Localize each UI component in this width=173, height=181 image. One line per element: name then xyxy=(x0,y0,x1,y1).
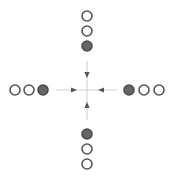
open-circle xyxy=(139,85,149,95)
open-circle xyxy=(154,85,164,95)
open-circle xyxy=(82,11,92,21)
filled-circle xyxy=(82,41,92,51)
arrow-down-icon xyxy=(84,72,89,78)
filled-circle xyxy=(38,85,48,95)
arrow-up-icon xyxy=(84,102,89,108)
diagram-canvas xyxy=(0,0,173,181)
open-circle xyxy=(24,85,34,95)
open-circle xyxy=(82,26,92,36)
open-circle xyxy=(10,85,20,95)
open-circle xyxy=(82,159,92,169)
filled-circle xyxy=(124,85,134,95)
crosshair-axes xyxy=(56,61,117,120)
open-circle xyxy=(82,144,92,154)
arrow-right-icon xyxy=(71,87,77,92)
circle-group-bottom xyxy=(82,129,92,169)
filled-circle xyxy=(82,129,92,139)
circle-group-right xyxy=(124,85,164,95)
convergence-diagram xyxy=(0,0,173,181)
arrow-left-icon xyxy=(98,87,104,92)
circle-group-left xyxy=(10,85,48,95)
circle-group-top xyxy=(82,11,92,51)
